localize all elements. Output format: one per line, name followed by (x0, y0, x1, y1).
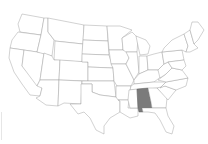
state-new-mexico[interactable] (58, 80, 82, 106)
state-south-dakota[interactable] (82, 40, 109, 55)
state-colorado[interactable] (59, 60, 88, 81)
us-map (0, 0, 208, 144)
state-mississippi[interactable] (128, 89, 138, 108)
state-florida[interactable] (142, 108, 174, 134)
state-washington[interactable] (18, 14, 44, 35)
state-wyoming[interactable] (54, 41, 83, 62)
state-michigan[interactable] (136, 36, 150, 55)
state-kansas[interactable] (88, 67, 114, 81)
state-new-york[interactable] (162, 34, 188, 52)
state-north-dakota[interactable] (83, 25, 108, 41)
